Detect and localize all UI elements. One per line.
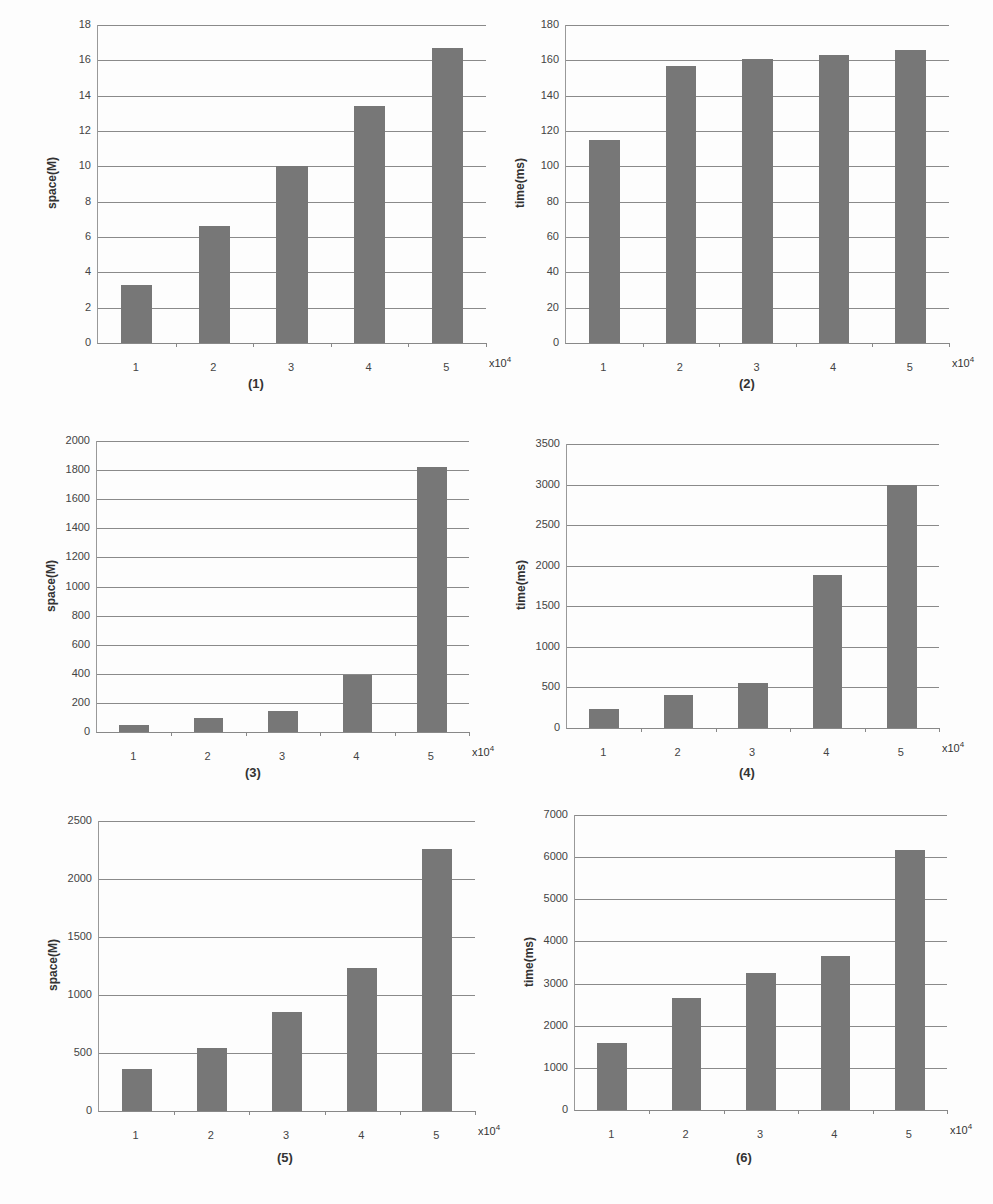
gridline — [575, 815, 947, 816]
y-tick-label: 180 — [523, 18, 559, 30]
x-tick-label: 4 — [346, 750, 366, 762]
y-tick-label: 4000 — [532, 934, 568, 946]
x-tick-label: 1 — [593, 361, 613, 373]
y-tick-label: 0 — [532, 1103, 568, 1115]
bar — [199, 226, 230, 343]
y-tick-label: 160 — [523, 53, 559, 65]
x-unit-base: x10 — [478, 1125, 496, 1137]
y-tick-label: 140 — [523, 89, 559, 101]
y-tick-label: 40 — [523, 265, 559, 277]
x-tick-mark — [790, 728, 791, 732]
bar — [738, 683, 768, 728]
x-tick-mark — [947, 1110, 948, 1114]
gridline — [567, 606, 939, 607]
gridline — [97, 557, 469, 558]
y-tick-label: 0 — [56, 1104, 92, 1116]
bar — [197, 1048, 227, 1111]
x-tick-label: 1 — [593, 746, 613, 758]
gridline — [567, 566, 939, 567]
x-tick-label: 5 — [900, 361, 920, 373]
x-tick-label: 4 — [823, 361, 843, 373]
y-tick-label: 7000 — [532, 808, 568, 820]
bar — [417, 467, 447, 732]
gridline — [567, 525, 939, 526]
gridline — [566, 25, 949, 26]
bar — [895, 850, 925, 1110]
bar — [272, 1012, 302, 1111]
y-tick-label: 600 — [54, 638, 90, 650]
y-tick-label: 2000 — [56, 872, 92, 884]
gridline — [97, 499, 469, 500]
bar — [432, 48, 463, 343]
x-tick-label: 2 — [670, 361, 690, 373]
x-tick-mark — [796, 343, 797, 347]
y-tick-label: 6 — [55, 230, 91, 242]
y-tick-label: 1200 — [54, 550, 90, 562]
x-tick-mark — [469, 732, 470, 736]
chart-caption: (6) — [736, 1150, 752, 1165]
y-tick-label: 5000 — [532, 892, 568, 904]
x-tick-label: 5 — [899, 1128, 919, 1140]
x-tick-label: 2 — [668, 746, 688, 758]
y-tick-label: 10 — [55, 159, 91, 171]
y-tick-label: 8 — [55, 195, 91, 207]
x-tick-mark — [320, 732, 321, 736]
y-tick-label: 800 — [54, 609, 90, 621]
x-tick-mark — [872, 343, 873, 347]
y-tick-label: 400 — [54, 667, 90, 679]
x-tick-mark — [716, 728, 717, 732]
x-tick-label: 1 — [601, 1128, 621, 1140]
y-axis-label: space(M) — [44, 551, 58, 621]
gridline — [98, 96, 486, 97]
gridline — [97, 703, 469, 704]
y-tick-label: 1000 — [532, 1061, 568, 1073]
y-tick-label: 500 — [56, 1046, 92, 1058]
x-tick-label: 4 — [351, 1129, 371, 1141]
y-tick-label: 500 — [524, 680, 560, 692]
gridline — [567, 647, 939, 648]
x-tick-label: 2 — [203, 361, 223, 373]
y-tick-label: 2000 — [532, 1019, 568, 1031]
x-tick-mark — [724, 1110, 725, 1114]
y-axis-label: time(ms) — [514, 550, 528, 620]
y-tick-label: 20 — [523, 301, 559, 313]
bar — [666, 66, 697, 343]
gridline — [99, 937, 475, 938]
gridline — [99, 821, 475, 822]
x-tick-mark — [873, 1110, 874, 1114]
gridline — [97, 616, 469, 617]
x-tick-mark — [649, 1110, 650, 1114]
gridline — [97, 587, 469, 588]
y-tick-label: 3000 — [524, 478, 560, 490]
y-tick-label: 80 — [523, 195, 559, 207]
y-tick-label: 1000 — [54, 580, 90, 592]
x-tick-mark — [395, 732, 396, 736]
bar — [589, 140, 620, 343]
x-unit-base: x10 — [952, 357, 970, 369]
gridline — [97, 674, 469, 675]
gridline — [567, 485, 939, 486]
x-tick-label: 5 — [426, 1129, 446, 1141]
x-unit-exponent: 4 — [970, 355, 974, 364]
chart-caption: (1) — [248, 376, 264, 391]
plot-area — [566, 444, 939, 729]
chart-caption: (3) — [245, 765, 261, 780]
bar — [122, 1069, 152, 1111]
x-tick-mark — [486, 343, 487, 347]
x-tick-label: 3 — [747, 361, 767, 373]
y-tick-label: 1800 — [54, 463, 90, 475]
x-unit-exponent: 4 — [496, 1123, 500, 1132]
y-tick-label: 3000 — [532, 977, 568, 989]
bar — [597, 1043, 627, 1110]
x-tick-mark — [400, 1111, 401, 1115]
bar — [276, 166, 307, 343]
y-tick-label: 1500 — [56, 930, 92, 942]
gridline — [575, 899, 947, 900]
x-tick-mark — [939, 728, 940, 732]
y-tick-label: 0 — [523, 336, 559, 348]
y-tick-label: 200 — [54, 696, 90, 708]
x-tick-mark — [331, 343, 332, 347]
bar — [895, 50, 926, 343]
gridline — [97, 645, 469, 646]
x-axis-unit-label: x104 — [489, 355, 511, 369]
